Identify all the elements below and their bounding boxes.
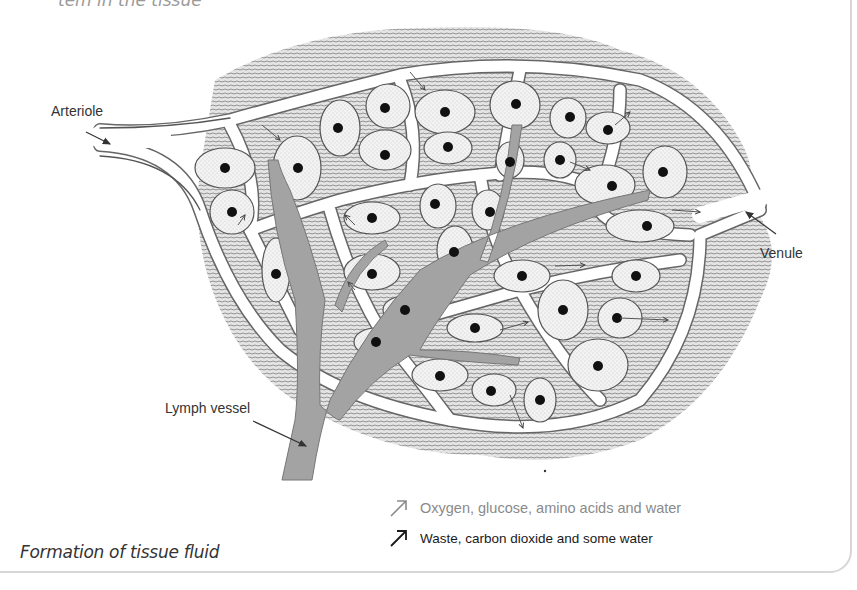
legend-item-nutrients: Oxygen, glucose, amino acids and water <box>388 497 681 519</box>
legend-label: Oxygen, glucose, amino acids and water <box>420 500 681 516</box>
legend-item-waste: Waste, carbon dioxide and some water <box>388 527 653 549</box>
arteriole-label: Arteriole <box>51 103 103 119</box>
arrow-up-right-light-icon <box>388 497 410 519</box>
figure-caption: Formation of tissue fluid <box>20 542 219 562</box>
legend-label: Waste, carbon dioxide and some water <box>420 531 653 546</box>
venule-label: Venule <box>760 245 803 261</box>
arrow-up-right-dark-icon <box>388 527 410 549</box>
lymph-vessel-label: Lymph vessel <box>165 400 250 416</box>
